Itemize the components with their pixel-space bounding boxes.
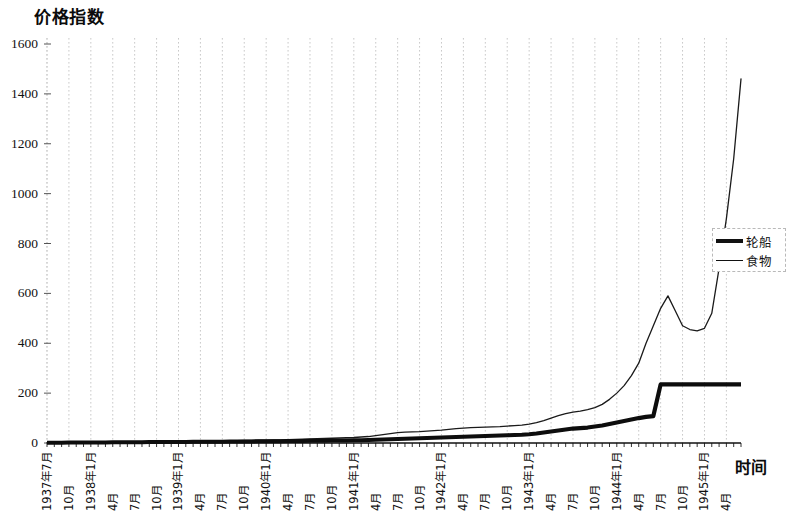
x-axis-tick-label: 7月 [130, 493, 142, 511]
legend-item-food: 食物 [716, 251, 772, 269]
x-axis-tick-label: 10月 [64, 485, 76, 511]
x-axis-tick-label: 10月 [327, 485, 339, 511]
legend-swatch-ship-icon [716, 239, 743, 243]
series-line-food [47, 79, 741, 443]
legend-item-ship: 轮船 [716, 232, 772, 250]
x-axis-tick-label: 4月 [283, 493, 295, 511]
y-axis-tick-label: 600 [0, 285, 38, 301]
x-axis-tick-label: 1945年1月 [699, 452, 711, 511]
plot-area [0, 0, 797, 514]
axis-ticks-group [44, 44, 741, 447]
y-axis-tick-label: 1400 [0, 86, 38, 102]
y-axis-tick-label: 1000 [0, 186, 38, 202]
x-axis-tick-label: 1944年1月 [612, 452, 624, 511]
x-axis-tick-label: 7月 [568, 493, 580, 511]
x-axis-tick-label: 4月 [371, 493, 383, 511]
x-axis-tick-label: 7月 [393, 493, 405, 511]
x-axis-tick-label: 4月 [546, 493, 558, 511]
gridlines-group [47, 38, 726, 443]
chart-legend: 轮船 食物 [712, 228, 786, 272]
x-axis-tick-label: 10月 [590, 485, 602, 511]
legend-label-ship: 轮船 [746, 232, 772, 251]
price-index-chart: 价格指数 16001400120010008006004002000 1937年… [0, 0, 797, 514]
x-axis-tick-label: 4月 [108, 493, 120, 511]
x-axis-tick-label: 10月 [152, 485, 164, 511]
x-axis-tick-label: 1937年7月 [42, 452, 54, 511]
x-axis-tick-label: 10月 [239, 485, 251, 511]
x-axis-tick-label: 4月 [458, 493, 470, 511]
x-axis-tick-label: 1939年1月 [173, 452, 185, 511]
y-axis-tick-label: 400 [0, 335, 38, 351]
y-axis-tick-label: 1600 [0, 36, 38, 52]
x-axis-title: 时间 [735, 454, 767, 478]
legend-label-food: 食物 [746, 251, 772, 270]
x-axis-tick-label: 1940年1月 [261, 452, 273, 511]
x-axis-tick-label: 7月 [480, 493, 492, 511]
x-axis-tick-label: 7月 [305, 493, 317, 511]
x-axis-tick-label: 4月 [634, 493, 646, 511]
x-axis-tick-label: 10月 [415, 485, 427, 511]
y-axis-tick-label: 800 [0, 236, 38, 252]
y-axis-tick-label: 0 [0, 435, 38, 451]
series-line-ship [47, 384, 741, 442]
x-axis-tick-label: 4月 [195, 493, 207, 511]
x-axis-tick-label: 10月 [678, 485, 690, 511]
x-axis-tick-label: 7月 [656, 493, 668, 511]
x-axis-tick-label: 1941年1月 [349, 452, 361, 511]
y-axis-tick-label: 200 [0, 385, 38, 401]
x-axis-tick-label: 7月 [217, 493, 229, 511]
legend-swatch-food-icon [716, 260, 743, 261]
x-axis-tick-label: 1938年1月 [86, 452, 98, 511]
x-axis-tick-label: 1943年1月 [524, 452, 536, 511]
x-axis-tick-label: 1942年1月 [436, 452, 448, 511]
x-axis-tick-label: 10月 [502, 485, 514, 511]
x-axis-tick-label: 4月 [721, 493, 733, 511]
y-axis-tick-label: 1200 [0, 136, 38, 152]
